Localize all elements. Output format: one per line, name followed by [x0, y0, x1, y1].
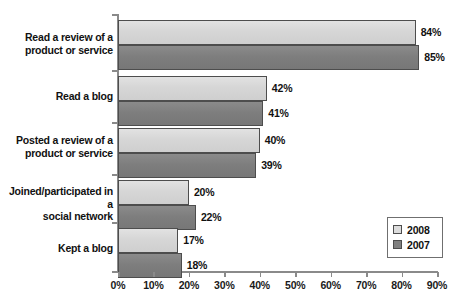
bar-2007-4	[118, 205, 196, 230]
category-label-kept-a-blog: Kept a blog	[1, 242, 113, 255]
x-axis-tick-label: 20%	[179, 279, 199, 291]
bar-value-label: 20%	[194, 186, 214, 198]
x-axis-tick-label: 30%	[214, 279, 234, 291]
x-axis-tick-label: 80%	[391, 279, 411, 291]
category-label-line: Read a blog	[1, 90, 113, 103]
x-axis-tick-label: 0%	[111, 279, 126, 291]
bar-2008-1	[118, 20, 416, 45]
x-axis-tick	[331, 272, 333, 277]
category-label-line: Joined/participated in a	[1, 185, 113, 210]
x-axis-tick	[260, 272, 262, 277]
x-axis-tick	[153, 272, 155, 277]
legend-label: 2008	[407, 224, 430, 236]
bar-chart: Read a review of a product or service Re…	[0, 0, 454, 303]
bar-2008-2	[118, 76, 267, 101]
x-axis-tick-label: 90%	[427, 279, 447, 291]
legend-swatch-icon	[393, 225, 402, 234]
x-axis-tick-label: 60%	[320, 279, 340, 291]
x-axis-tick	[118, 272, 120, 277]
legend-label: 2007	[407, 239, 430, 251]
bar-2008-4	[118, 180, 189, 205]
category-label-line: Read a review of a	[1, 31, 113, 44]
bar-value-label: 42%	[272, 82, 292, 94]
bar-2008-5	[118, 228, 178, 253]
x-axis-tick	[295, 272, 297, 277]
legend-swatch-icon	[393, 240, 402, 249]
x-axis-tick	[224, 272, 226, 277]
bar-2007-2	[118, 101, 263, 126]
bar-2007-5	[118, 253, 182, 278]
bar-value-label: 85%	[424, 51, 444, 63]
category-label-line: Kept a blog	[1, 242, 113, 255]
x-axis-tick-label: 10%	[143, 279, 163, 291]
bar-value-label: 41%	[268, 107, 288, 119]
category-axis-labels: Read a review of a product or service Re…	[0, 0, 113, 303]
category-label-read-a-review: Read a review of a product or service	[1, 31, 113, 56]
bar-value-label: 40%	[265, 134, 285, 146]
legend-item-2008[interactable]: 2008	[393, 222, 437, 237]
bar-2007-3	[118, 153, 256, 178]
category-label-social-network: Joined/participated in a social network	[1, 185, 113, 223]
bar-value-label: 18%	[187, 259, 207, 271]
legend-item-2007[interactable]: 2007	[393, 237, 437, 252]
x-axis-tick	[437, 272, 439, 277]
category-label-line: product or service	[1, 147, 113, 160]
x-axis-tick	[402, 272, 404, 277]
x-axis-tick	[189, 272, 191, 277]
x-axis-tick-label: 50%	[285, 279, 305, 291]
x-axis-tick-label: 40%	[250, 279, 270, 291]
x-axis-tick	[366, 272, 368, 277]
bar-2008-3	[118, 128, 260, 153]
legend: 2008 2007	[387, 217, 443, 258]
category-label-posted-a-review: Posted a review of a product or service	[1, 134, 113, 159]
bar-value-label: 84%	[421, 26, 441, 38]
category-label-line: product or service	[1, 44, 113, 57]
bar-value-label: 39%	[261, 159, 281, 171]
category-label-read-a-blog: Read a blog	[1, 90, 113, 103]
category-label-line: social network	[1, 210, 113, 223]
x-axis-tick-label: 70%	[356, 279, 376, 291]
bar-value-label: 17%	[183, 234, 203, 246]
category-label-line: Posted a review of a	[1, 134, 113, 147]
bar-value-label: 22%	[201, 211, 221, 223]
bar-2007-1	[118, 45, 419, 70]
